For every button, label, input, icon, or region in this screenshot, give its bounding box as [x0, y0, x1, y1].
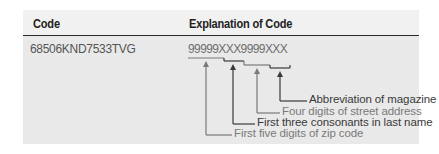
arrow-zip-code	[203, 61, 232, 135]
label-zip-code: First five digits of zip code	[234, 127, 363, 139]
code-explanation-table: Code Explanation of Code 68506KND7533TVG…	[23, 10, 419, 144]
arrow-last-name	[230, 64, 255, 124]
label-magazine: Abbreviation of magazine	[309, 93, 436, 105]
column-header-explanation: Explanation of Code	[189, 17, 292, 31]
table-header-row: Code Explanation of Code	[23, 10, 419, 36]
arrow-magazine	[277, 71, 307, 101]
table-row: 68506KND7533TVG 99999XXX9999XXX	[23, 36, 419, 144]
column-header-code: Code	[33, 17, 60, 31]
arrow-street-address	[254, 68, 280, 113]
